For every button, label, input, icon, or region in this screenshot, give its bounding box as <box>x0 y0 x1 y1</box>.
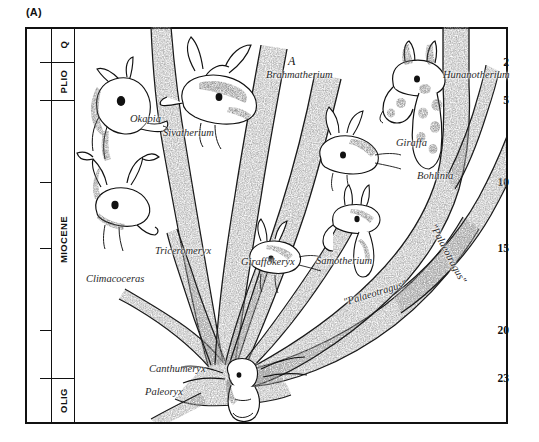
tick-mark-20 <box>40 330 52 331</box>
taxon-label-giraffokeryx: Giraffokeryx <box>241 256 295 267</box>
taxon-label-triceromeryx: Triceromeryx <box>155 245 211 256</box>
panel-label: (A) <box>26 6 42 18</box>
axis-number-column <box>25 27 52 424</box>
tick-mark-2 <box>40 62 52 63</box>
figure-panel: (A) 2 5 10 15 20 23 Q PLIO MIOCENE OLIG <box>0 0 539 442</box>
taxon-label-paleoryx: Paleoryx <box>145 386 183 397</box>
taxon-label-bohlinia: Bohlinia <box>417 170 453 181</box>
illustration-giraffa <box>380 41 445 169</box>
epoch-band-miocene: MIOCENE <box>52 100 75 378</box>
clade-marker-a: A <box>288 54 295 69</box>
taxon-label-samotherium: Samotherium <box>316 255 372 266</box>
taxon-label-giraffa: Giraffa <box>396 137 427 148</box>
taxon-label-canthumeryx: Canthumeryx <box>149 363 206 374</box>
taxon-label-sivatherium: Sivatherium <box>163 127 214 138</box>
epoch-label-quaternary: Q <box>58 41 69 49</box>
tick-mark-10 <box>40 182 52 183</box>
tick-mark-15 <box>40 248 52 249</box>
tick-mark-5 <box>40 100 52 101</box>
tick-mark-23 <box>40 378 52 379</box>
illustration-climacoceras <box>77 152 159 251</box>
taxon-label-okapia: Okapia <box>130 113 161 124</box>
taxon-label-brahmatherium: Brahmatherium <box>266 69 333 80</box>
taxon-label-climacoceras: Climacoceras <box>86 273 144 284</box>
phylogeny-tree <box>75 27 506 422</box>
epoch-band-quaternary: Q <box>52 27 75 62</box>
epoch-label-miocene: MIOCENE <box>58 215 69 262</box>
taxon-label-hunanotherium: Hunanotherium <box>443 69 510 80</box>
epoch-label-oligocene: OLIG <box>58 388 69 413</box>
epoch-band-oligocene: OLIG <box>52 378 75 422</box>
epoch-band-pliocene: PLIO <box>52 62 75 100</box>
epoch-label-pliocene: PLIO <box>58 69 69 93</box>
